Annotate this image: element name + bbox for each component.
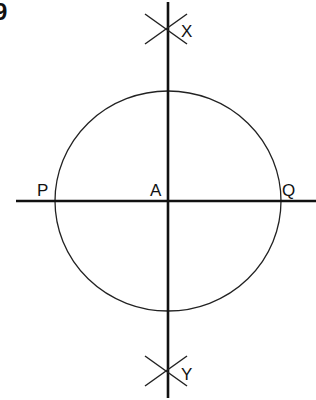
figure-number: 9: [0, 0, 7, 25]
label-y: Y: [181, 365, 192, 384]
construction-figure: 9 P A Q X Y: [0, 0, 316, 400]
geometry-diagram: 9 P A Q X Y: [0, 0, 316, 400]
label-p: P: [37, 181, 48, 200]
label-q: Q: [282, 181, 295, 200]
label-x: X: [181, 22, 192, 41]
label-a: A: [150, 181, 162, 200]
